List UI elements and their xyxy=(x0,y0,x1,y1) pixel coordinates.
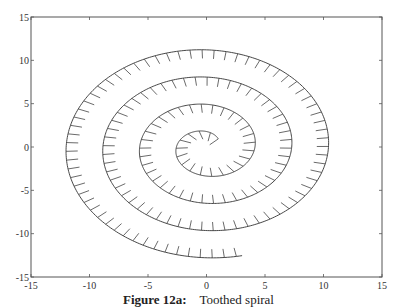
spiral-tooth xyxy=(78,109,89,112)
spiral-tooth xyxy=(255,60,260,68)
spiral-tooth xyxy=(151,124,161,128)
spiral-tooth xyxy=(154,241,158,249)
y-tick-label: 0 xyxy=(24,142,29,153)
spiral-tooth xyxy=(210,139,219,145)
spiral-tooth xyxy=(258,181,267,187)
spiral-tooth xyxy=(143,237,148,245)
spiral-tooth xyxy=(167,215,171,223)
x-tick-label: -5 xyxy=(144,280,152,291)
x-tick-label: 10 xyxy=(319,280,329,291)
spiral-tooth xyxy=(254,215,259,223)
spiral-tooth xyxy=(306,177,317,180)
spiral-tooth xyxy=(168,111,175,118)
spiral-tooth xyxy=(137,202,144,209)
spiral-tooth xyxy=(117,112,127,116)
spiral-tooth xyxy=(200,249,201,258)
spiral-tooth xyxy=(179,190,183,198)
axes-frame xyxy=(31,17,382,277)
spiral-tooth xyxy=(314,120,325,123)
spiral-tooth xyxy=(316,154,328,155)
spiral-tooth xyxy=(223,194,226,202)
spiral-tooth xyxy=(178,107,183,115)
spiral-tooth xyxy=(141,93,149,99)
spiral-tooth xyxy=(106,79,115,85)
spiral-tooth xyxy=(129,197,137,203)
spiral-tooth xyxy=(264,65,270,73)
spiral-tooth xyxy=(134,63,140,70)
x-tick-label: 0 xyxy=(204,280,209,291)
spiral-tooth xyxy=(74,117,85,120)
spiral-tooth xyxy=(235,118,243,124)
spiral-tooth xyxy=(188,134,196,140)
spiral-tooth xyxy=(289,81,297,87)
spiral-tooth xyxy=(228,112,234,119)
spiral-tooth xyxy=(217,78,219,87)
spiral-tooth xyxy=(146,207,152,214)
spiral-tooth xyxy=(178,51,181,59)
spiral-tooth xyxy=(244,218,248,226)
spiral-tooth xyxy=(307,104,317,108)
spiral-tooth xyxy=(169,186,175,193)
spiral-tooth xyxy=(202,222,203,231)
spiral-tooth xyxy=(115,184,125,189)
spiral-tooth xyxy=(264,212,270,219)
spiral-tooth xyxy=(71,175,82,178)
spiral-tooth xyxy=(213,222,214,231)
figure-caption: Figure 12a: Toothed spiral xyxy=(0,292,397,307)
x-tick-label: 5 xyxy=(263,280,268,291)
spiral-tooth xyxy=(208,133,210,142)
spiral-curve xyxy=(66,50,329,258)
figure-number: Figure 12a: xyxy=(123,292,187,307)
spiral-tooth xyxy=(316,129,327,131)
spiral-tooth xyxy=(317,138,329,139)
spiral-tooth xyxy=(311,112,322,115)
spiral-tooth xyxy=(177,153,188,157)
spiral-tooth xyxy=(104,162,115,164)
spiral-tooth xyxy=(281,75,289,82)
y-tick-label: -5 xyxy=(21,185,29,196)
spiral-tooth xyxy=(133,233,139,240)
spiral-tooth xyxy=(112,120,123,123)
spiral-tooth xyxy=(273,70,280,77)
spiral-tooth xyxy=(123,229,130,236)
spiral-tooth xyxy=(190,193,193,201)
spiral-tooth xyxy=(202,194,203,203)
y-tick-label: -10 xyxy=(16,228,29,239)
spiral-tooth xyxy=(213,50,214,59)
spiral-tooth xyxy=(67,159,79,160)
spiral-tooth xyxy=(172,80,176,88)
spiral-tooth xyxy=(124,105,134,110)
spiral-tooth xyxy=(314,162,325,164)
spiral-tooth xyxy=(239,156,250,159)
spiral-tooth xyxy=(278,155,290,156)
spiral-tooth xyxy=(150,88,157,95)
spiral-tooth xyxy=(107,169,118,172)
toothed-spiral-series xyxy=(66,50,329,258)
spiral-tooth xyxy=(246,88,252,96)
spiral-tooth xyxy=(200,166,202,175)
spiral-tooth xyxy=(224,52,226,61)
spiral-tooth xyxy=(155,56,160,64)
spiral-tooth xyxy=(74,183,85,186)
spiral-tooth xyxy=(220,108,224,116)
spiral-tooth xyxy=(234,220,237,228)
spiral-tooth xyxy=(240,125,250,130)
spiral-tooth xyxy=(210,168,212,177)
spiral-tooth xyxy=(189,105,192,113)
spiral-tooth xyxy=(244,142,256,143)
spiral-tooth xyxy=(97,86,106,91)
spiral-tooth xyxy=(195,77,196,86)
figure-title: Toothed spiral xyxy=(199,292,274,307)
spiral-tooth xyxy=(145,131,156,134)
spiral-tooth xyxy=(295,191,305,196)
spiral-tooth xyxy=(234,161,244,166)
spiral-tooth xyxy=(311,170,322,172)
spiral-tooth xyxy=(166,53,170,61)
spiral-tooth xyxy=(142,162,153,165)
x-tick-label: 15 xyxy=(377,280,387,291)
spiral-tooth xyxy=(71,125,82,127)
spiral-tooth xyxy=(254,93,261,100)
spiral-tooth xyxy=(301,184,311,188)
spiral-tooth xyxy=(90,205,99,210)
spiral-tooth xyxy=(280,139,292,140)
